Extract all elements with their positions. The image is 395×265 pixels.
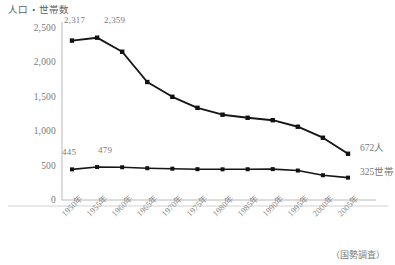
- household-start-label-2: 479: [98, 145, 112, 155]
- data-point-marker: [145, 166, 149, 170]
- source-note: （国勢調査）: [331, 248, 385, 261]
- data-point-marker: [120, 50, 124, 54]
- data-point-marker: [95, 165, 99, 169]
- data-point-marker: [220, 112, 224, 116]
- data-point-marker: [195, 167, 199, 171]
- population-line: [72, 38, 348, 154]
- population-start-label-1: 2,317: [64, 15, 85, 25]
- data-point-marker: [221, 167, 225, 171]
- data-point-marker: [195, 106, 199, 110]
- data-point-marker: [120, 165, 124, 169]
- population-end-label: 672人: [360, 140, 384, 154]
- data-point-marker: [296, 125, 300, 129]
- data-point-marker: [95, 36, 99, 40]
- data-point-marker: [271, 167, 275, 171]
- data-point-marker: [346, 176, 350, 180]
- data-point-marker: [145, 80, 149, 84]
- household-end-label: 325世帯: [360, 164, 394, 178]
- data-point-marker: [321, 136, 325, 140]
- population-markers: [70, 36, 350, 156]
- data-point-marker: [346, 152, 350, 156]
- population-start-label-2: 2,359: [104, 15, 125, 25]
- data-point-marker: [170, 95, 174, 99]
- data-point-marker: [246, 167, 250, 171]
- data-point-marker: [321, 173, 325, 177]
- household-line: [72, 167, 348, 178]
- data-point-marker: [271, 118, 275, 122]
- plot-area: [0, 0, 395, 265]
- data-point-marker: [170, 167, 174, 171]
- data-point-marker: [245, 116, 249, 120]
- household-start-label-1: 445: [62, 147, 76, 157]
- data-point-marker: [296, 169, 300, 173]
- chart-container: 人口・世帯数 2,500 2,000 1,500 1,000 500 0 2,3…: [0, 0, 395, 265]
- data-point-marker: [70, 38, 74, 42]
- data-point-marker: [70, 167, 74, 171]
